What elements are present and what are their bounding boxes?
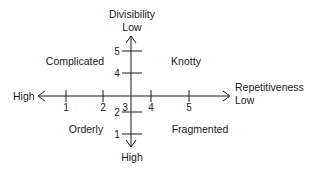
vertical-axis-bottom-label: High — [121, 151, 143, 163]
horizontal-axis-right-label: Low — [235, 94, 255, 106]
y-tick-4: 4 — [114, 68, 120, 79]
x-tick-5: 5 — [186, 102, 192, 113]
horizontal-axis-title: Repetitiveness — [235, 81, 304, 93]
quadrant-knotty: Knotty — [171, 55, 202, 67]
horizontal-axis-left-label: High — [13, 90, 35, 102]
x-tick-1: 1 — [63, 102, 69, 113]
horizontal-axis: 1 2 3 4 5 High Repetitiveness Low — [13, 81, 304, 113]
quadrant-diagram: 1 2 3 4 5 High Repetitiveness Low 5 4 2 … — [0, 0, 316, 176]
y-tick-2: 2 — [114, 107, 120, 118]
quadrant-fragmented: Fragmented — [172, 123, 229, 135]
x-tick-3: 3 — [122, 102, 128, 113]
y-tick-5: 5 — [114, 46, 120, 57]
quadrant-orderly: Orderly — [69, 123, 104, 135]
quadrant-labels: Complicated Knotty Orderly Fragmented — [46, 55, 229, 135]
x-tick-4: 4 — [148, 102, 154, 113]
vertical-axis: 5 4 2 1 Divisibility Low High — [109, 8, 156, 163]
quadrant-complicated: Complicated — [46, 55, 105, 67]
x-tick-2: 2 — [100, 102, 106, 113]
vertical-axis-top-label: Low — [122, 21, 142, 33]
vertical-axis-title: Divisibility — [109, 8, 156, 20]
y-tick-1: 1 — [114, 129, 120, 140]
